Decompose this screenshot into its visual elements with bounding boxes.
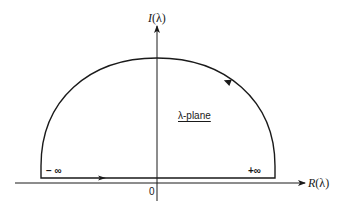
arc-direction-arrow-icon [224, 80, 232, 87]
imaginary-axis-label-arg: (λ) [152, 11, 166, 25]
imaginary-axis-label: I(λ) [148, 12, 166, 24]
origin-label: 0 [149, 187, 155, 197]
contour-diagram: I(λ) R(λ) 0 λ-plane − ∞ +∞ [0, 0, 344, 211]
plane-label: λ-plane [178, 111, 211, 121]
real-axis-label: R(λ) [308, 177, 329, 189]
diagram-canvas [0, 0, 344, 211]
semicircle-contour [41, 58, 275, 178]
minus-infinity-label: − ∞ [46, 166, 62, 176]
plus-infinity-label: +∞ [248, 166, 261, 176]
real-axis-label-arg: (λ) [315, 176, 329, 190]
